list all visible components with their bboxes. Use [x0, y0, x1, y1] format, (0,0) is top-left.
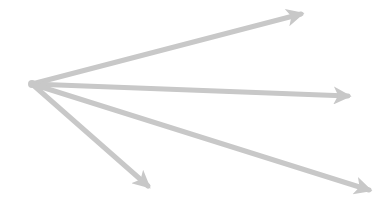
arrow-right	[32, 84, 348, 96]
arrow-fan-diagram	[0, 0, 389, 214]
arrow-lower-right	[32, 84, 369, 190]
arrow-down-right	[32, 84, 148, 186]
origin-point	[28, 80, 36, 88]
arrows-group	[32, 14, 369, 190]
arrow-upper-right	[32, 14, 301, 84]
